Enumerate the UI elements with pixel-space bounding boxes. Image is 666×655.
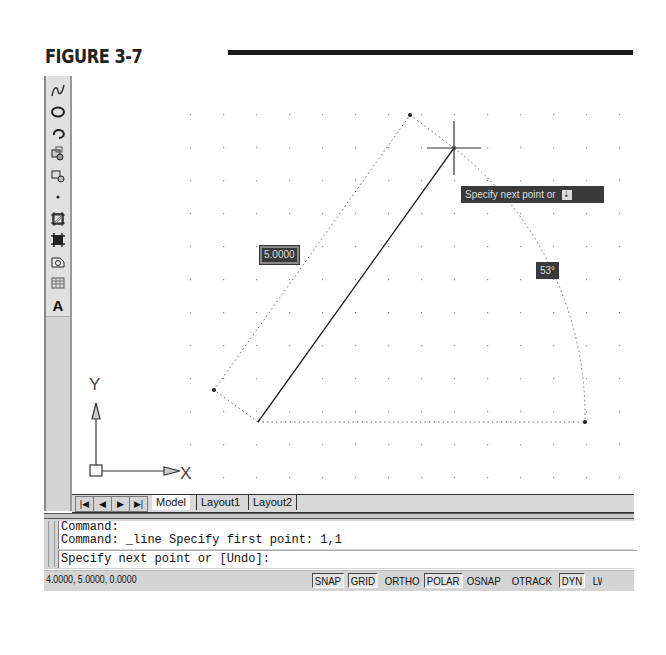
osnap-toggle[interactable]: OSNAP (464, 573, 503, 588)
grid-dots (190, 114, 620, 478)
tab-model[interactable]: Model (152, 495, 190, 510)
lw-toggle[interactable]: LW (590, 573, 603, 588)
drawing-canvas[interactable]: Y X (72, 76, 634, 494)
crosshair-cursor (427, 121, 481, 175)
command-window-grip[interactable] (48, 521, 55, 567)
polar-toggle[interactable]: POLAR (424, 573, 462, 588)
prev-tab-button[interactable]: ◀ (93, 496, 112, 512)
status-bar: 4.0000, 5.0000, 0.0000 SNAP GRID ORTHO P… (44, 570, 634, 591)
dimension-grip (583, 420, 587, 424)
autocad-window: A (44, 76, 634, 592)
ucs-icon (90, 403, 180, 476)
ucs-x-label: X (180, 464, 191, 483)
ellipse-icon[interactable] (49, 103, 67, 121)
draw-toolbar: A (44, 76, 72, 511)
tab-layout2[interactable]: Layout2 (248, 495, 297, 510)
region-icon[interactable] (49, 253, 67, 271)
command-window: Command: Command: _line Specify first po… (44, 519, 634, 569)
make-block-icon[interactable] (49, 167, 67, 185)
last-tab-button[interactable]: ▶| (129, 496, 148, 512)
coordinate-display[interactable]: 4.0000, 5.0000, 0.0000 (46, 574, 137, 585)
dimension-grip (212, 388, 216, 392)
length-input[interactable]: 5.0000 (260, 246, 299, 264)
command-history: Command: Command: _line Specify first po… (58, 521, 635, 549)
grid-toggle[interactable]: GRID (348, 573, 378, 588)
angle-input[interactable]: 53° (536, 262, 559, 279)
multiline-text-icon[interactable]: A (49, 296, 67, 314)
polar-tracking-guides (214, 115, 585, 422)
snap-toggle[interactable]: SNAP (312, 573, 344, 588)
dyn-toggle[interactable]: DYN (559, 573, 585, 588)
drawing-area[interactable]: Y X 5.0000 53° Specify next point or ⇣ (72, 76, 634, 494)
point-icon[interactable] (49, 188, 67, 206)
tab-layout1[interactable]: Layout1 (196, 495, 244, 510)
otrack-toggle[interactable]: OTRACK (509, 573, 555, 588)
table-icon[interactable] (49, 274, 67, 292)
layout-tab-bar: |◀ ◀ ▶ ▶| Model Layout1 Layout2 (72, 494, 634, 513)
dimension-grip (408, 113, 412, 117)
command-input[interactable]: Specify next point or [Undo]: (58, 550, 637, 568)
next-tab-button[interactable]: ▶ (111, 496, 130, 512)
dynamic-prompt-tooltip: Specify next point or ⇣ (461, 186, 604, 203)
insert-block-icon[interactable] (49, 145, 67, 163)
line-segment (258, 148, 454, 422)
history-line: Command: _line Specify first point: 1,1 (59, 534, 635, 547)
ucs-y-label: Y (89, 375, 100, 394)
figure-rule (228, 50, 633, 55)
tooltip-text: Specify next point or (465, 186, 556, 203)
ellipse-arc-icon[interactable] (49, 124, 67, 142)
options-arrow-icon[interactable]: ⇣ (562, 190, 572, 200)
first-tab-button[interactable]: |◀ (75, 496, 94, 512)
hatch-icon[interactable] (49, 210, 67, 228)
ortho-toggle[interactable]: ORTHO (382, 573, 422, 588)
gradient-icon[interactable] (49, 231, 67, 249)
figure-title: FIGURE 3-7 (45, 45, 142, 67)
spline-icon[interactable] (49, 81, 67, 99)
